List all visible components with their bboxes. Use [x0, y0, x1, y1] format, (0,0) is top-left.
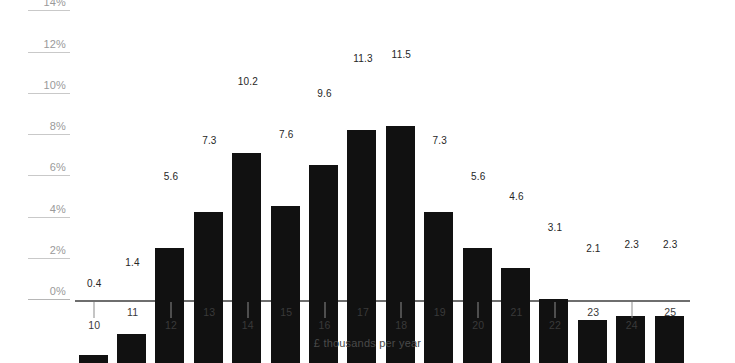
gridline	[28, 299, 70, 300]
gridline	[28, 10, 70, 11]
x-axis-tick-label: 14	[229, 319, 267, 331]
bar-value-label: 2.1	[574, 243, 612, 254]
bar-value-label: 2.3	[651, 239, 689, 250]
x-axis-tick-mark	[94, 302, 95, 318]
bar-value-label: 2.3	[613, 239, 651, 250]
x-axis-tick-mark	[401, 302, 402, 318]
y-axis: 0%2%4%6%8%10%12%14%	[0, 0, 70, 363]
x-axis-tick-mark	[478, 302, 479, 318]
y-axis-tick-label: 10%	[43, 79, 66, 91]
bar-value-label: 4.6	[497, 191, 535, 202]
x-axis-tick-label: 19	[421, 306, 459, 318]
gridline	[28, 134, 70, 135]
bar-value-label: 0.4	[75, 278, 113, 289]
bar-value-label: 10.2	[229, 76, 267, 87]
y-axis-tick-label: 0%	[50, 285, 66, 297]
x-axis-tick-mark	[324, 302, 325, 318]
bar-value-label: 3.1	[536, 222, 574, 233]
x-axis-tick-label: 12	[152, 319, 190, 331]
x-axis-title: £ thousands per year	[0, 337, 735, 349]
bar-value-label: 7.3	[421, 135, 459, 146]
x-axis-tick-label: 22	[536, 319, 574, 331]
gridline	[28, 52, 70, 53]
x-axis-tick-label: 20	[459, 319, 497, 331]
x-axis-tick-label: 11	[113, 306, 151, 318]
x-axis-tick-label: 17	[344, 306, 382, 318]
x-axis-tick-label: 21	[497, 306, 535, 318]
x-axis-tick-label: 25	[651, 306, 689, 318]
gridline	[28, 217, 70, 218]
x-axis-tick-label: 23	[574, 306, 612, 318]
bar-value-label: 7.3	[190, 135, 228, 146]
x-axis-tick-label: 10	[75, 319, 113, 331]
gridline	[28, 93, 70, 94]
y-axis-tick-label: 8%	[50, 120, 66, 132]
bar-value-label: 9.6	[305, 88, 343, 99]
x-axis-tick-label: 24	[613, 319, 651, 331]
bar-value-label: 11.5	[382, 49, 420, 60]
y-axis-tick-label: 2%	[50, 244, 66, 256]
y-axis-tick-label: 4%	[50, 203, 66, 215]
gridline	[28, 175, 70, 176]
x-axis-tick-label: 18	[382, 319, 420, 331]
x-axis: 10111213141516171819202122232425	[75, 300, 690, 363]
y-axis-tick-label: 14%	[43, 0, 66, 8]
x-axis-tick-label: 16	[305, 319, 343, 331]
x-axis-tick-mark	[247, 302, 248, 318]
bar-value-label: 11.3	[344, 53, 382, 64]
y-axis-tick-label: 12%	[43, 38, 66, 50]
x-axis-tick-mark	[170, 302, 171, 318]
bar-value-label: 1.4	[113, 257, 151, 268]
x-axis-tick-label: 15	[267, 306, 305, 318]
x-axis-tick-mark	[631, 302, 632, 318]
histogram-chart: 0%2%4%6%8%10%12%14% 0.41.45.67.310.27.69…	[0, 0, 735, 363]
x-axis-tick-mark	[554, 302, 555, 318]
bar-value-label: 5.6	[152, 171, 190, 182]
x-axis-tick-label: 13	[190, 306, 228, 318]
bar-value-label: 7.6	[267, 129, 305, 140]
bar-value-label: 5.6	[459, 171, 497, 182]
y-axis-tick-label: 6%	[50, 161, 66, 173]
gridline	[28, 258, 70, 259]
